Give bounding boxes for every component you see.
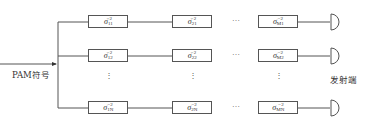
vertical-ellipsis: ⋮	[105, 74, 111, 77]
superscript: −2	[107, 16, 112, 21]
weight-box-22: σ22−2	[172, 49, 212, 62]
weight-box-2n: σ2N−2	[172, 101, 212, 114]
horizontal-ellipsis: …	[232, 14, 240, 23]
input-label: PAM符号	[12, 68, 50, 80]
subscript: M2	[277, 55, 284, 60]
vertical-ellipsis: ⋮	[275, 74, 281, 77]
subscript: 11	[108, 21, 113, 26]
output-label: 发射端	[330, 73, 357, 85]
horizontal-ellipsis: …	[232, 48, 240, 57]
subscript: 21	[192, 21, 197, 26]
weight-box-mn: σMN−2	[258, 101, 298, 114]
horizontal-ellipsis: …	[232, 100, 240, 109]
superscript: −2	[107, 50, 112, 55]
subscript: 12	[108, 55, 113, 60]
vertical-ellipsis: ⋮	[189, 74, 195, 77]
superscript: −2	[191, 16, 196, 21]
weight-box-m1: σM1−2	[258, 15, 298, 28]
superscript: −2	[191, 102, 196, 107]
superscript: −2	[278, 102, 283, 107]
superscript: −2	[278, 50, 283, 55]
antenna-icon	[331, 14, 339, 30]
weight-box-11: σ11−2	[88, 15, 128, 28]
weight-box-m2: σM2−2	[258, 49, 298, 62]
superscript: −2	[107, 102, 112, 107]
subscript: 1N	[107, 107, 113, 112]
superscript: −2	[191, 50, 196, 55]
weight-box-1n: σ1N−2	[88, 101, 128, 114]
antenna-icon	[331, 48, 339, 64]
superscript: −2	[278, 16, 283, 21]
subscript: MN	[276, 107, 284, 112]
weight-box-12: σ12−2	[88, 49, 128, 62]
subscript: 2N	[191, 107, 197, 112]
subscript: 22	[192, 55, 197, 60]
subscript: M1	[277, 21, 284, 26]
weight-box-21: σ21−2	[172, 15, 212, 28]
antenna-icon	[331, 100, 339, 116]
